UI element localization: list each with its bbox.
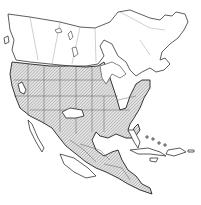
range-map	[0, 0, 201, 205]
caribbean-islands	[130, 136, 194, 162]
